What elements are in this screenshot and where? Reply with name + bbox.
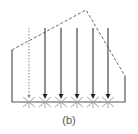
arrowhead-icon xyxy=(106,94,111,99)
dotted-arrowhead-icon xyxy=(27,95,31,98)
arrowhead-icon xyxy=(43,94,48,99)
arrowhead-icon xyxy=(91,94,96,99)
dotted-line xyxy=(27,28,31,98)
figure-caption: (b) xyxy=(0,114,138,126)
load-arrows xyxy=(43,28,111,99)
arrowhead-icon xyxy=(75,94,80,99)
arrowhead-icon xyxy=(59,94,64,99)
